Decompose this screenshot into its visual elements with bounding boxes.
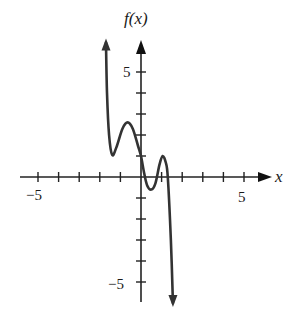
curve-down-arrow-icon bbox=[168, 295, 177, 307]
end-arrows bbox=[101, 39, 177, 307]
axes bbox=[20, 40, 272, 302]
function-graph: f(x) x −5 5 5 −5 bbox=[0, 0, 300, 314]
y-axis-arrow-icon bbox=[136, 40, 146, 54]
y-tick-label-neg5: −5 bbox=[108, 276, 124, 292]
function-curve bbox=[106, 43, 173, 303]
x-axis-label: x bbox=[274, 167, 283, 186]
curve-up-arrow-icon bbox=[101, 39, 110, 51]
y-tick-label-5: 5 bbox=[123, 64, 131, 80]
y-axis-label: f(x) bbox=[124, 9, 148, 28]
x-tick-label-neg5: −5 bbox=[26, 187, 42, 203]
x-axis-arrow-icon bbox=[258, 172, 272, 182]
x-tick-label-5: 5 bbox=[238, 189, 246, 205]
